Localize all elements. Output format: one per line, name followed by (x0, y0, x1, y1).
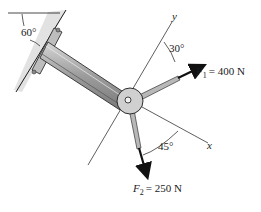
f2-angle-label: 45° (158, 140, 173, 152)
f1-label: F1= 400 N (195, 65, 245, 80)
y-axis-label: y (171, 10, 177, 22)
f1-value: = 400 N (209, 65, 245, 77)
f2-label: F2= 250 N (132, 182, 182, 197)
f2-subscript: 2 (140, 188, 144, 197)
force-f2-arrow (128, 104, 147, 176)
x-axis-label: x (206, 139, 212, 151)
f1-angle-annotation: 30° (164, 42, 184, 62)
beam-member (40, 42, 128, 110)
wall-angle-label: 60° (21, 26, 36, 38)
f2-value: = 250 N (146, 182, 182, 194)
f1-subscript: 1 (203, 71, 207, 80)
f2-angle-annotation: 45° (143, 131, 178, 155)
force-diagram: 60° y x 30° 45 (0, 0, 261, 212)
f1-angle-label: 30° (169, 42, 184, 54)
force-f1-arrow (135, 66, 203, 102)
hub-ring (117, 88, 143, 114)
